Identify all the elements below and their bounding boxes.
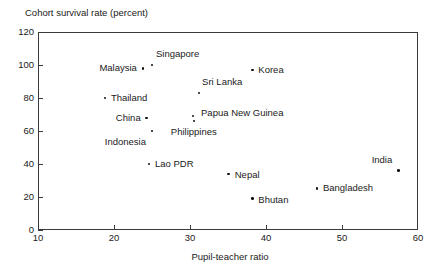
data-point-label: Korea (258, 65, 283, 75)
x-tick-label: 50 (327, 233, 357, 243)
x-tick-mark (190, 225, 191, 230)
x-tick-mark (342, 225, 343, 230)
data-point-label: Thailand (111, 93, 147, 103)
y-tick-mark (38, 65, 43, 66)
data-point-label: Bhutan (258, 195, 288, 205)
data-point (251, 69, 254, 72)
data-point-label: Lao PDR (155, 159, 194, 169)
y-tick-mark (38, 98, 43, 99)
y-tick-label: 60 (0, 126, 34, 136)
y-tick-label: 120 (0, 27, 34, 37)
x-tick-label: 60 (403, 233, 433, 243)
y-axis-title: Cohort survival rate (percent) (25, 7, 148, 18)
x-tick-label: 40 (251, 233, 281, 243)
x-axis-title: Pupil-teacher ratio (0, 251, 438, 262)
x-tick-label: 30 (175, 233, 205, 243)
data-point-label: Singapore (156, 49, 199, 59)
y-tick-mark (38, 32, 43, 33)
x-tick-label: 10 (23, 233, 53, 243)
plot-area (38, 32, 418, 230)
y-tick-mark (38, 164, 43, 165)
data-point (145, 117, 148, 120)
data-point-label: Papua New Guinea (201, 108, 283, 118)
x-tick-mark (266, 225, 267, 230)
x-tick-mark (114, 225, 115, 230)
data-point-label: Nepal (235, 170, 260, 180)
y-tick-label: 20 (0, 192, 34, 202)
data-point-label: China (116, 113, 141, 123)
data-point-label: Indonesia (105, 137, 146, 147)
data-point (251, 197, 254, 200)
y-tick-label: 80 (0, 93, 34, 103)
y-tick-mark (38, 131, 43, 132)
data-point-label: Bangladesh (323, 183, 373, 193)
y-tick-label: 40 (0, 159, 34, 169)
data-point-label: India (372, 155, 393, 165)
x-tick-label: 20 (99, 233, 129, 243)
y-tick-mark (38, 197, 43, 198)
data-point-label: Sri Lanka (202, 77, 242, 87)
data-point (142, 67, 145, 70)
x-axis-title-text: Pupil-teacher ratio (169, 251, 268, 262)
scatter-chart-figure: Cohort survival rate (percent) 020406080… (0, 0, 438, 272)
data-point (397, 169, 400, 172)
data-point-label: Philippines (171, 127, 217, 137)
y-tick-mark (38, 230, 43, 231)
y-tick-label: 100 (0, 60, 34, 70)
data-point-label: Malaysia (99, 63, 137, 73)
